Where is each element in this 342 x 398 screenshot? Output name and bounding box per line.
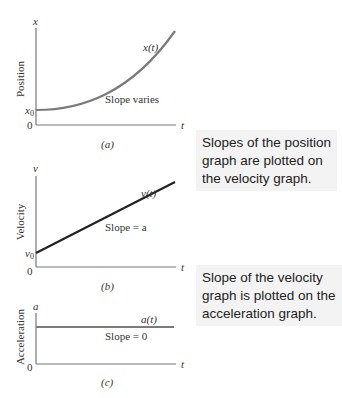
velocity-graph: v t 0 v0 Velocity v(t) Slope = a (b) xyxy=(14,162,185,293)
axis-x-symbol: t xyxy=(181,261,185,273)
note-line: acceleration graph. xyxy=(202,305,336,323)
origin-label: 0 xyxy=(27,265,33,277)
curve-label: a(t) xyxy=(141,313,157,326)
y-axis-title: Acceleration xyxy=(14,308,26,365)
annotation: Slope = a xyxy=(105,221,147,233)
axis-x-symbol: t xyxy=(181,358,185,370)
y-axis-title: Velocity xyxy=(14,203,26,240)
intercept-label: x0 xyxy=(24,104,34,118)
axis-x-symbol: t xyxy=(181,119,185,131)
origin-label: 0 xyxy=(27,119,33,131)
annotation: Slope = 0 xyxy=(105,330,148,342)
axis-y-symbol: v xyxy=(33,162,38,174)
note-line: graph are plotted on xyxy=(202,152,331,170)
note-line: Slopes of the position xyxy=(202,134,331,152)
caption: (b) xyxy=(101,280,114,293)
caption: (a) xyxy=(101,138,114,151)
note-position-to-velocity: Slopes of the position graph are plotted… xyxy=(196,130,337,191)
annotation: Slope varies xyxy=(105,93,159,105)
intercept-label: v0 xyxy=(25,247,34,261)
note-line: the velocity graph. xyxy=(202,170,331,188)
note-velocity-to-acceleration: Slope of the velocity graph is plotted o… xyxy=(196,265,342,326)
axis-y-symbol: a xyxy=(33,300,39,312)
y-axis-title: Position xyxy=(14,60,26,97)
curve-label: x(t) xyxy=(142,41,159,54)
caption: (c) xyxy=(101,376,114,389)
position-graph: x t 0 x0 Position x(t) Slope varies (a) xyxy=(14,15,185,151)
acceleration-graph: a t 0 Acceleration a(t) Slope = 0 (c) xyxy=(14,300,185,389)
origin-label: 0 xyxy=(27,361,33,373)
axis-y-symbol: x xyxy=(32,15,38,27)
note-line: graph is plotted on the xyxy=(202,287,336,305)
note-line: Slope of the velocity xyxy=(202,269,336,287)
curve-label: v(t) xyxy=(141,187,157,200)
